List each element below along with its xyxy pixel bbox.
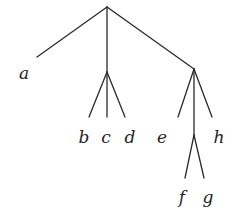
- edge-fg-g: [194, 135, 204, 178]
- edge-right-h: [194, 69, 212, 117]
- leaf-label-f: f: [177, 187, 188, 207]
- tree-diagram: a b c d e h f g: [0, 0, 240, 223]
- tree-svg: a b c d e h f g: [0, 0, 240, 223]
- leaf-label-g: g: [203, 187, 214, 207]
- edge-fg-f: [185, 135, 194, 178]
- leaf-label-a: a: [19, 63, 29, 83]
- leaf-label-h: h: [214, 127, 225, 147]
- leaf-label-d: d: [125, 127, 136, 147]
- leaf-label-e: e: [157, 127, 167, 147]
- leaf-label-c: c: [101, 127, 111, 147]
- edge-root-right: [107, 7, 194, 69]
- edge-mid-b: [89, 72, 107, 117]
- edge-mid-d: [107, 72, 125, 117]
- tree-edges: [37, 7, 212, 178]
- leaf-label-b: b: [79, 127, 90, 147]
- edge-right-e: [178, 69, 194, 117]
- edge-root-a: [37, 7, 107, 57]
